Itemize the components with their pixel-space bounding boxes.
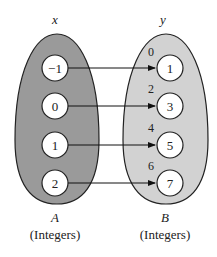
domain-element: −1 [42, 55, 68, 81]
set-a-name: A [50, 210, 59, 225]
domain-element: 1 [42, 132, 68, 158]
svg-text:1: 1 [167, 61, 174, 76]
mapping-diagram: x y −1 0 1 2 1 3 5 7 0 2 4 6 A (In [0, 0, 217, 257]
domain-variable-label: x [51, 12, 58, 27]
unmapped-value: 2 [148, 82, 154, 96]
codomain-element: 7 [157, 170, 183, 196]
svg-text:−1: −1 [48, 61, 62, 76]
svg-text:2: 2 [52, 176, 59, 191]
unmapped-value: 6 [148, 159, 154, 173]
svg-text:1: 1 [52, 138, 59, 153]
unmapped-value: 0 [148, 45, 154, 59]
unmapped-value: 4 [148, 121, 154, 135]
domain-element: 0 [42, 93, 68, 119]
svg-text:3: 3 [167, 99, 174, 114]
domain-element: 2 [42, 170, 68, 196]
codomain-element: 3 [157, 93, 183, 119]
svg-text:5: 5 [167, 138, 174, 153]
set-a-description: (Integers) [30, 227, 81, 242]
set-b-name: B [161, 210, 169, 225]
set-b-description: (Integers) [140, 227, 191, 242]
svg-text:7: 7 [167, 176, 174, 191]
codomain-variable-label: y [158, 12, 166, 27]
codomain-element: 5 [157, 132, 183, 158]
svg-text:0: 0 [52, 99, 59, 114]
codomain-element: 1 [157, 55, 183, 81]
